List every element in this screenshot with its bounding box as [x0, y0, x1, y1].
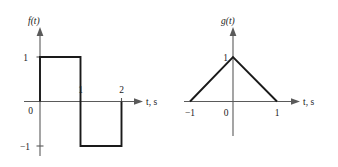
f-x-axis-arrowhead [134, 98, 143, 105]
g-x-label-1: 1 [275, 108, 280, 118]
g-y-label-1: 1 [223, 53, 228, 63]
f-origin-label: 0 [28, 106, 33, 116]
g-function-label: g(t) [221, 16, 235, 27]
f-x-label-1: 1 [78, 85, 83, 95]
f-x-label-2: 2 [119, 85, 124, 95]
g-x-label-0: 0 [224, 108, 229, 118]
g-x-axis-arrowhead [291, 98, 300, 105]
f-x-axis-title: t, s [146, 97, 157, 107]
f-y-axis-arrowhead [37, 27, 44, 36]
panel-f-of-t: f(t) 1 0 −1 1 2 t, s [20, 16, 157, 156]
g-y-axis-arrowhead [230, 27, 237, 36]
waveform-figure: f(t) 1 0 −1 1 2 t, s g(t) 1 −1 0 1 t, s [0, 0, 338, 167]
g-x-axis-title: t, s [303, 97, 314, 107]
figure-container: f(t) 1 0 −1 1 2 t, s g(t) 1 −1 0 1 t, s [0, 0, 338, 167]
f-function-label: f(t) [28, 16, 40, 27]
f-y-label-minus1: −1 [20, 142, 30, 152]
g-x-label-minus1: −1 [185, 108, 195, 118]
panel-g-of-t: g(t) 1 −1 0 1 t, s [184, 16, 314, 136]
f-y-label-1: 1 [23, 53, 28, 63]
